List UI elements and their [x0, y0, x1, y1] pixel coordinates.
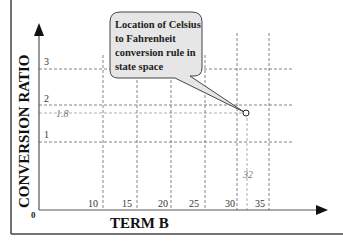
horizontal-grid — [39, 69, 294, 142]
origin-label: 0 — [31, 210, 36, 220]
callout-line-1: Location of Celsius — [115, 19, 201, 30]
y-axis-arrow-icon — [34, 23, 44, 36]
x-tick-35: 35 — [255, 198, 265, 209]
x-axis-label: TERM B — [110, 215, 169, 231]
y-tick-1: 1 — [44, 129, 49, 140]
callout-line-4: state space — [115, 61, 163, 72]
x-tick-32: 32 — [242, 169, 253, 180]
state-space-diagram: CONVERSION RATIO TERM B 0 3 2 1.8 1 10 1… — [0, 0, 343, 244]
y-tick-3: 3 — [44, 56, 49, 67]
y-tick-2: 2 — [44, 93, 49, 104]
x-tick-30: 30 — [225, 198, 235, 209]
x-tick-10: 10 — [88, 198, 98, 209]
y-tick-1-8: 1.8 — [56, 108, 69, 119]
x-axis-arrow-icon — [316, 205, 328, 215]
x-tick-20: 20 — [158, 198, 168, 209]
celsius-fahrenheit-point — [243, 110, 249, 116]
x-tick-25: 25 — [189, 198, 199, 209]
callout-line-2: to Fahrenheit — [115, 33, 176, 44]
y-axis-label: CONVERSION RATIO — [16, 55, 32, 209]
callout-line-3: conversion rule in — [115, 47, 196, 58]
x-tick-15: 15 — [122, 198, 132, 209]
